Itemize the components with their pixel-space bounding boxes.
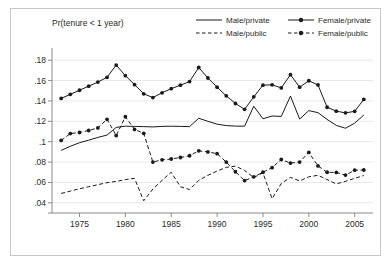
data-point [215, 85, 219, 89]
data-point [316, 83, 320, 87]
data-point [68, 132, 72, 136]
y-tick-label: .1 [14, 138, 46, 147]
data-point [353, 168, 357, 172]
data-point [234, 170, 238, 174]
data-point [114, 134, 118, 138]
data-point [270, 166, 274, 170]
y-tick-label: .18 [14, 56, 46, 65]
data-point [123, 115, 127, 119]
data-point [59, 139, 63, 143]
series-line-male-public [61, 166, 364, 201]
data-point [206, 76, 210, 80]
x-tick-label: 1990 [197, 220, 237, 229]
chart-figure: Pr(tenure < 1 year) Male/privateFemale/p… [0, 0, 391, 264]
data-point [261, 83, 265, 87]
data-point [270, 83, 274, 87]
data-point [151, 160, 155, 164]
data-point [224, 94, 228, 98]
x-tick-label: 1980 [105, 220, 145, 229]
data-point [224, 160, 228, 164]
data-point [325, 170, 329, 174]
data-point [96, 126, 100, 130]
y-tick-label: .06 [14, 178, 46, 187]
data-point [243, 107, 247, 111]
data-point [307, 79, 311, 83]
data-point [334, 109, 338, 113]
data-point [188, 80, 192, 84]
data-point [252, 95, 256, 99]
x-tick-label: 2005 [335, 220, 375, 229]
x-tick-label: 1995 [243, 220, 283, 229]
data-point [234, 102, 238, 106]
data-point [316, 164, 320, 168]
y-tick-label: .16 [14, 77, 46, 86]
data-point [96, 80, 100, 84]
series-line-male-private [61, 96, 364, 150]
data-point [179, 83, 183, 87]
data-point [298, 160, 302, 164]
x-tick-label: 2000 [289, 220, 329, 229]
data-point [215, 152, 219, 156]
data-point [87, 84, 91, 88]
data-point [362, 168, 366, 172]
x-tick-label: 1975 [60, 220, 100, 229]
y-tick-label: .08 [14, 158, 46, 167]
data-point [133, 128, 137, 132]
data-point [87, 129, 91, 133]
data-point [362, 98, 366, 102]
data-point [169, 157, 173, 161]
data-point [344, 173, 348, 177]
data-point [197, 149, 201, 153]
data-point [59, 96, 63, 100]
y-tick-label: .14 [14, 97, 46, 106]
data-point [188, 154, 192, 158]
data-point [160, 158, 164, 162]
data-point [334, 171, 338, 175]
data-point [353, 109, 357, 113]
data-point [279, 86, 283, 90]
data-point [142, 131, 146, 135]
data-point [307, 150, 311, 154]
data-point [133, 83, 137, 87]
data-point [78, 131, 82, 135]
data-point [68, 92, 72, 96]
data-point [279, 158, 283, 162]
x-tick-label: 1985 [151, 220, 191, 229]
series-line-female-private [61, 65, 364, 113]
data-point [325, 105, 329, 109]
data-point [197, 66, 201, 70]
data-point [78, 88, 82, 92]
data-point [243, 179, 247, 183]
data-point [289, 161, 293, 165]
data-point [206, 150, 210, 154]
data-point [344, 111, 348, 115]
data-point [151, 96, 155, 100]
y-tick-label: .04 [14, 199, 46, 208]
data-point [179, 156, 183, 160]
y-tick-label: .12 [14, 117, 46, 126]
series-line-female-public [61, 117, 364, 181]
data-point [114, 63, 118, 67]
data-point [105, 117, 109, 121]
data-point [105, 75, 109, 79]
data-point [289, 73, 293, 77]
data-point [123, 74, 127, 78]
data-point [169, 87, 173, 91]
data-point [142, 92, 146, 96]
data-point [160, 91, 164, 95]
data-point [298, 85, 302, 89]
